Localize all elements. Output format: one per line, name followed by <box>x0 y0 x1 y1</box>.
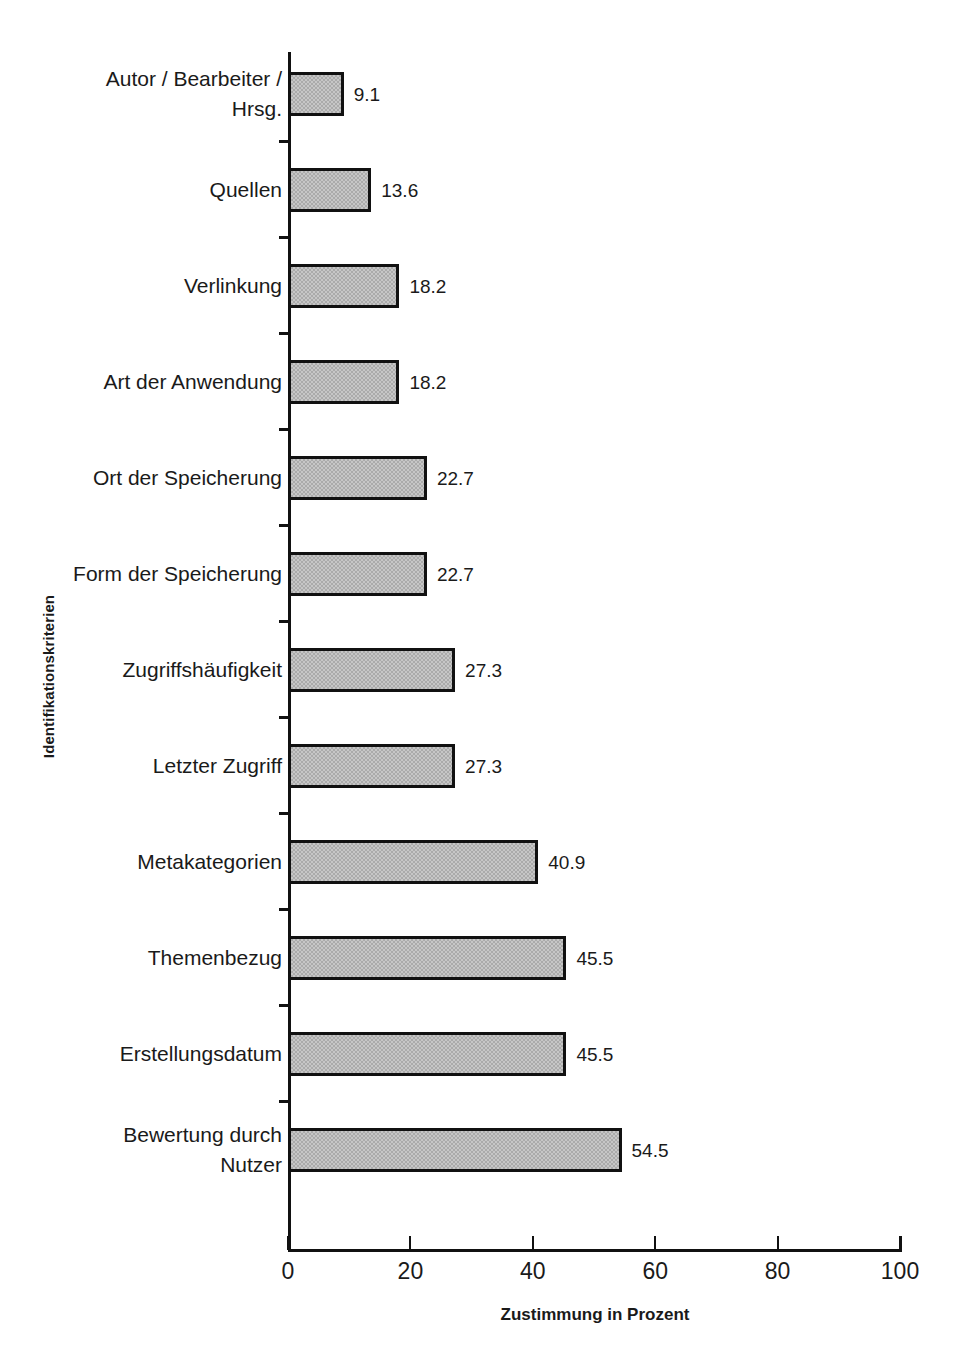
x-axis-title: Zustimmung in Prozent <box>288 1305 902 1325</box>
bar-row: Themenbezug45.5 <box>0 936 963 980</box>
x-axis-tick-label: 100 <box>860 1258 940 1285</box>
bar-chart: Identifikationskriterien 020406080100 Au… <box>0 0 963 1364</box>
category-label: Autor / Bearbeiter /Hrsg. <box>0 64 282 124</box>
y-axis-tick <box>279 428 291 431</box>
y-axis-tick <box>279 908 291 911</box>
category-label: Ort der Speicherung <box>0 465 282 491</box>
x-axis-tick-label: 40 <box>493 1258 573 1285</box>
category-label: Letzter Zugriff <box>0 753 282 779</box>
bar-row: Verlinkung18.2 <box>0 264 963 308</box>
x-axis-line <box>288 1249 902 1252</box>
x-axis-tick-label: 80 <box>738 1258 818 1285</box>
bar <box>288 744 455 788</box>
bar-row: Ort der Speicherung22.7 <box>0 456 963 500</box>
bar <box>288 456 427 500</box>
x-axis-tick-label: 20 <box>370 1258 450 1285</box>
bar <box>288 936 566 980</box>
bar <box>288 1032 566 1076</box>
bar-value-label: 18.2 <box>409 372 446 394</box>
bar-value-label: 54.5 <box>632 1140 669 1162</box>
category-label: Verlinkung <box>0 273 282 299</box>
x-axis-tick <box>899 1236 901 1250</box>
bar <box>288 840 538 884</box>
x-axis-tick <box>409 1236 411 1250</box>
y-axis-tick <box>279 1004 291 1007</box>
bar-row: Erstellungsdatum45.5 <box>0 1032 963 1076</box>
bar-row: Zugriffshäufigkeit27.3 <box>0 648 963 692</box>
category-label: Bewertung durchNutzer <box>0 1120 282 1180</box>
y-axis-tick <box>279 140 291 143</box>
x-axis-tick <box>777 1236 779 1250</box>
bar-value-label: 13.6 <box>381 180 418 202</box>
x-axis-tick-label: 60 <box>615 1258 695 1285</box>
category-label: Erstellungsdatum <box>0 1041 282 1067</box>
bar-row: Form der Speicherung22.7 <box>0 552 963 596</box>
category-label: Form der Speicherung <box>0 561 282 587</box>
bar-value-label: 45.5 <box>576 948 613 970</box>
bar <box>288 648 455 692</box>
category-label: Metakategorien <box>0 849 282 875</box>
bar <box>288 72 344 116</box>
bar <box>288 1128 622 1172</box>
category-label: Themenbezug <box>0 945 282 971</box>
bar-value-label: 27.3 <box>465 660 502 682</box>
y-axis-tick <box>279 620 291 623</box>
y-axis-tick <box>279 1100 291 1103</box>
category-label: Quellen <box>0 177 282 203</box>
x-axis-tick <box>654 1236 656 1250</box>
bar-value-label: 18.2 <box>409 276 446 298</box>
y-axis-tick <box>279 812 291 815</box>
bar-row: Quellen13.6 <box>0 168 963 212</box>
y-axis-tick <box>279 524 291 527</box>
bar-row: Autor / Bearbeiter /Hrsg.9.1 <box>0 72 963 116</box>
x-axis-tick <box>532 1236 534 1250</box>
x-axis-tick-label: 0 <box>248 1258 328 1285</box>
bar <box>288 264 399 308</box>
bar-value-label: 45.5 <box>576 1044 613 1066</box>
bar-value-label: 27.3 <box>465 756 502 778</box>
bar-value-label: 22.7 <box>437 564 474 586</box>
category-label: Zugriffshäufigkeit <box>0 657 282 683</box>
bar-row: Letzter Zugriff27.3 <box>0 744 963 788</box>
bar <box>288 360 399 404</box>
bar <box>288 168 371 212</box>
x-axis-tick <box>287 1236 289 1250</box>
bar-value-label: 9.1 <box>354 84 380 106</box>
bar <box>288 552 427 596</box>
category-label: Art der Anwendung <box>0 369 282 395</box>
bar-row: Metakategorien40.9 <box>0 840 963 884</box>
bar-row: Bewertung durchNutzer54.5 <box>0 1128 963 1172</box>
y-axis-tick <box>279 332 291 335</box>
bar-row: Art der Anwendung18.2 <box>0 360 963 404</box>
y-axis-tick <box>279 236 291 239</box>
bar-value-label: 40.9 <box>548 852 585 874</box>
bar-value-label: 22.7 <box>437 468 474 490</box>
y-axis-tick <box>279 716 291 719</box>
